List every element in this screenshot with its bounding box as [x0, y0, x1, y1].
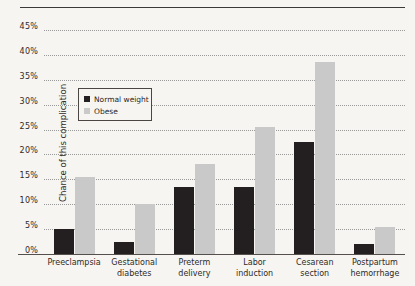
- bar: [354, 244, 374, 254]
- bar: [174, 187, 194, 254]
- bar-groups: [44, 30, 405, 254]
- y-tick-label: 20%: [20, 146, 38, 155]
- y-tick-label: 30%: [20, 97, 38, 106]
- y-tick-label: 15%: [20, 171, 38, 180]
- bar: [375, 227, 395, 254]
- legend-label-normal-weight: Normal weight: [94, 95, 149, 104]
- x-axis-line: [18, 254, 405, 255]
- y-tick-label: 35%: [20, 72, 38, 81]
- legend: Normal weight Obese: [78, 88, 152, 121]
- legend-item-obese: Obese: [84, 105, 146, 117]
- legend-item-normal-weight: Normal weight: [84, 93, 146, 105]
- x-tick-label: Preterm delivery: [164, 258, 224, 279]
- legend-swatch-icon-normal-weight: [84, 96, 90, 102]
- legend-swatch-icon-obese: [84, 108, 90, 114]
- plot-area: 0%5%10%15%20%25%30%35%40%45% Preeclampsi…: [44, 30, 405, 254]
- y-tick-label: 45%: [20, 22, 38, 31]
- bar: [294, 142, 314, 254]
- bar: [315, 62, 335, 254]
- bar-group: [114, 30, 155, 254]
- bar-chart: Chance of this complication 0%5%10%15%20…: [0, 0, 415, 286]
- x-tick-label: Preeclampsia: [44, 258, 104, 269]
- y-tick-label: 40%: [20, 47, 38, 56]
- x-tick-label: Cesarean section: [285, 258, 345, 279]
- y-tick-label: 10%: [20, 196, 38, 205]
- bar: [114, 242, 134, 254]
- bar-group: [234, 30, 275, 254]
- bar: [234, 187, 254, 254]
- bar-group: [54, 30, 95, 254]
- bar: [135, 204, 155, 254]
- x-tick-label: Labor induction: [225, 258, 285, 279]
- bar-group: [294, 30, 335, 254]
- bar: [255, 127, 275, 254]
- bar-group: [354, 30, 395, 254]
- top-rule: [20, 7, 405, 8]
- legend-label-obese: Obese: [94, 107, 118, 116]
- bar-group: [174, 30, 215, 254]
- bar: [195, 164, 215, 254]
- y-tick-label: 25%: [20, 122, 38, 131]
- x-tick-label: Postpartum hemorrhage: [345, 258, 405, 279]
- x-tick-label: Gestational diabetes: [104, 258, 164, 279]
- bar: [75, 177, 95, 254]
- y-tick-label: 5%: [25, 221, 38, 230]
- bar: [54, 229, 74, 254]
